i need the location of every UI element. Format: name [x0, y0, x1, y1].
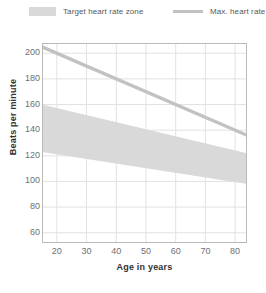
- x-tick-label: 30: [74, 247, 100, 256]
- x-tick-label: 80: [222, 247, 248, 256]
- y-axis-title: Beats per minute: [8, 62, 18, 172]
- x-tick-label: 50: [133, 247, 159, 256]
- x-axis-ticks: 20304050607080: [0, 0, 266, 293]
- x-tick-label: 70: [192, 247, 218, 256]
- x-axis-title: Age in years: [42, 262, 247, 272]
- x-tick-label: 40: [103, 247, 129, 256]
- x-tick-label: 60: [163, 247, 189, 256]
- heart-rate-chart: Target heart rate zone Max. heart rate 6…: [0, 0, 266, 293]
- x-tick-label: 20: [44, 247, 70, 256]
